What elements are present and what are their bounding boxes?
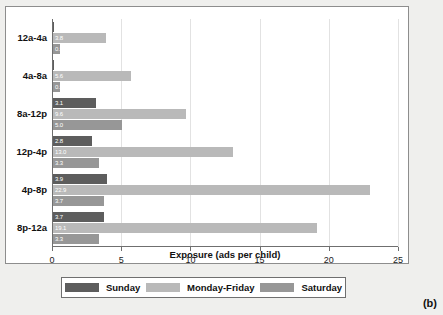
bar-value-label: 3.3 <box>55 234 63 244</box>
bar-value-label: 3.7 <box>55 212 63 222</box>
bar-group: 4a-8a05.60.5 <box>53 60 398 93</box>
bar[interactable] <box>53 185 370 195</box>
bar-row: 9.6 <box>53 109 398 119</box>
panel-label: (b) <box>423 297 437 309</box>
legend-label: Saturday <box>301 282 342 293</box>
category-label: 4a-8a <box>23 70 47 81</box>
bar-value-label: 0 <box>55 22 58 32</box>
bar-row: 3.7 <box>53 212 398 222</box>
bar[interactable] <box>53 120 122 130</box>
bar-value-label: 9.6 <box>55 109 63 119</box>
legend-swatch <box>65 283 99 292</box>
bar-group: 8a-12p3.19.65.0 <box>53 98 398 131</box>
bar[interactable] <box>53 147 233 157</box>
category-label: 12a-4a <box>17 32 47 43</box>
bar-row: 3.9 <box>53 174 398 184</box>
bar-value-label: 3.1 <box>55 98 63 108</box>
legend-entry[interactable]: Saturday <box>260 282 342 293</box>
legend-swatch <box>146 283 180 292</box>
bar-value-label: 3.8 <box>55 33 63 43</box>
bar-value-label: 22.9 <box>55 185 66 195</box>
category-label: 8p-12a <box>17 222 47 233</box>
bar-row: 3.3 <box>53 158 398 168</box>
bar-value-label: 3.3 <box>55 158 63 168</box>
legend-label: Monday-Friday <box>187 282 255 293</box>
legend-swatch <box>260 283 294 292</box>
bar-group: 12p-4p2.813.03.3 <box>53 136 398 169</box>
bar[interactable] <box>53 60 54 70</box>
bar-row: 0.5 <box>53 82 398 92</box>
bar-row: 3.3 <box>53 234 398 244</box>
bar-row: 19.1 <box>53 223 398 233</box>
bar-group: 8p-12a3.719.13.3 <box>53 212 398 245</box>
bar-row: 0 <box>53 22 398 32</box>
x-axis-title: Exposure (ads per child) <box>52 249 398 260</box>
bar-value-label: 2.8 <box>55 136 63 146</box>
bar-group: 12a-4a03.80.5 <box>53 22 398 55</box>
bar-row: 5.0 <box>53 120 398 130</box>
plot-frame: 0510152025 12a-4a03.80.54a-8a05.60.58a-1… <box>5 6 409 264</box>
category-axis-line <box>52 246 398 247</box>
bar-row: 2.8 <box>53 136 398 146</box>
bar-value-label: 0.5 <box>55 82 63 92</box>
bar-row: 22.9 <box>53 185 398 195</box>
figure-panel: 0510152025 12a-4a03.80.54a-8a05.60.58a-1… <box>0 0 443 315</box>
category-label: 12p-4p <box>16 146 47 157</box>
legend-label: Sunday <box>106 282 140 293</box>
x-tick-mark <box>398 247 399 251</box>
bar-value-label: 3.7 <box>55 196 63 206</box>
bar-row: 0.5 <box>53 44 398 54</box>
bar-value-label: 3.9 <box>55 174 63 184</box>
bar-group: 4p-8p3.922.93.7 <box>53 174 398 207</box>
bar-value-label: 0 <box>55 60 58 70</box>
bar-value-label: 0.5 <box>55 44 63 54</box>
plot-area: 0510152025 12a-4a03.80.54a-8a05.60.58a-1… <box>52 19 398 247</box>
bar-value-label: 13.0 <box>55 147 66 157</box>
gridline <box>398 19 399 247</box>
legend-entry[interactable]: Monday-Friday <box>146 282 255 293</box>
bar-row: 0 <box>53 60 398 70</box>
bar[interactable] <box>53 71 131 81</box>
legend-entry[interactable]: Sunday <box>65 282 140 293</box>
bar-row: 13.0 <box>53 147 398 157</box>
bar[interactable] <box>53 223 317 233</box>
bar[interactable] <box>53 22 54 32</box>
bar[interactable] <box>53 109 186 119</box>
bar-value-label: 5.0 <box>55 120 63 130</box>
chart-legend: SundayMonday-FridaySaturday <box>61 277 346 298</box>
bar-row: 3.7 <box>53 196 398 206</box>
bar-row: 5.6 <box>53 71 398 81</box>
category-label: 4p-8p <box>22 184 47 195</box>
category-label: 8a-12p <box>17 108 47 119</box>
bar-value-label: 5.6 <box>55 71 63 81</box>
bar-row: 3.1 <box>53 98 398 108</box>
bar-row: 3.8 <box>53 33 398 43</box>
bar-value-label: 19.1 <box>55 223 66 233</box>
